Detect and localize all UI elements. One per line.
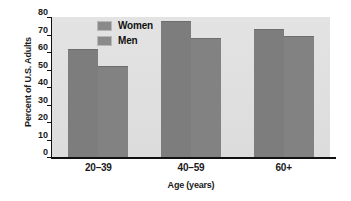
legend-swatch-men (97, 36, 112, 46)
bar-women-1 (68, 49, 98, 158)
y-tick-label: 0 (26, 147, 48, 157)
chart-legend: Women Men (97, 19, 175, 49)
y-tick-mark (47, 87, 52, 88)
y-tick-label: 50 (26, 60, 48, 70)
bar-men-3 (284, 36, 314, 157)
y-tick-mark (47, 17, 52, 18)
y-tick-mark (47, 70, 52, 71)
legend-swatch-women (97, 21, 112, 31)
legend-item-women: Women (97, 19, 175, 32)
y-tick-mark (47, 140, 52, 141)
y-tick-mark (47, 105, 52, 106)
legend-label-women: Women (118, 20, 153, 31)
x-axis-title: Age (years) (52, 180, 330, 190)
y-tick-label: 20 (26, 112, 48, 122)
y-tick-mark (47, 122, 52, 123)
legend-label-men: Men (118, 35, 137, 46)
bar-men-2 (191, 38, 221, 157)
y-tick-label: 10 (26, 130, 48, 140)
y-axis-tick-labels: 01020304050607080 (26, 12, 48, 162)
plot-area (52, 17, 330, 157)
x-tick-label: 20–39 (85, 162, 112, 173)
x-tick-label: 60+ (275, 162, 291, 173)
y-tick-label: 30 (26, 95, 48, 105)
bar-women-3 (254, 29, 284, 157)
legend-item-men: Men (97, 34, 175, 47)
y-tick-mark (47, 52, 52, 53)
x-axis-tick-labels: 20–3940–5960+ (52, 162, 330, 176)
y-tick-label: 80 (26, 7, 48, 17)
bar-men-1 (98, 66, 128, 157)
bar-chart-figure: Percent of U.S. Adults 01020304050607080… (0, 0, 351, 201)
x-tick-label: 40–59 (178, 162, 205, 173)
y-tick-mark (47, 35, 52, 36)
y-tick-label: 60 (26, 42, 48, 52)
y-tick-label: 40 (26, 77, 48, 87)
y-tick-label: 70 (26, 25, 48, 35)
y-tick-mark (47, 157, 52, 158)
x-axis-line (51, 157, 336, 159)
